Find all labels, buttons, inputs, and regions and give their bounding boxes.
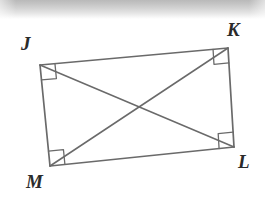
diagram-canvas: J K M L (0, 0, 265, 209)
side-lm (50, 147, 234, 166)
diagonal-km (50, 48, 228, 166)
vertex-label-l: L (238, 152, 250, 171)
vertex-label-j: J (21, 34, 31, 53)
vertex-label-m: M (26, 172, 43, 191)
vertex-label-k: K (227, 20, 240, 39)
diagonals-group (40, 48, 234, 166)
side-jk (40, 48, 228, 65)
diagonal-jl (40, 65, 234, 147)
sides-group (40, 48, 234, 166)
